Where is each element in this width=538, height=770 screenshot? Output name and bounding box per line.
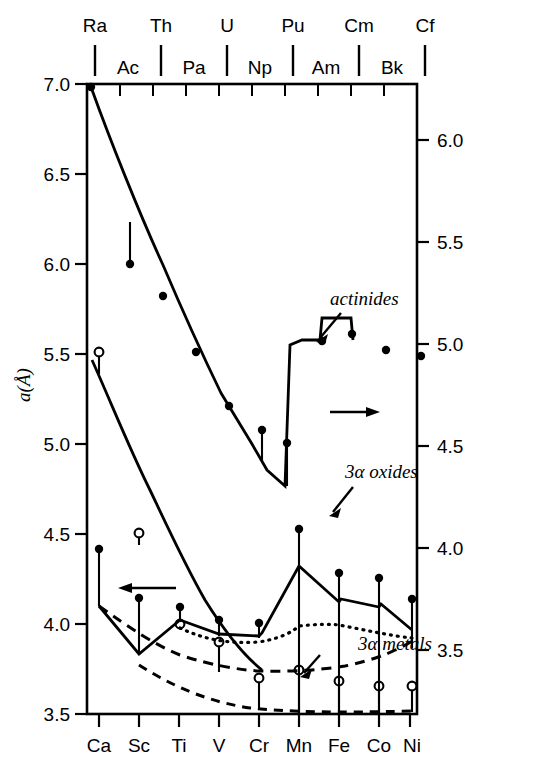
bottom-label-ti: Ti	[171, 735, 186, 756]
series-3d-oxides	[95, 525, 416, 714]
bottom-label-cr: Cr	[249, 735, 270, 756]
left-tick-6-5: 6.5	[44, 164, 70, 185]
left-descending-point-ca	[95, 348, 104, 357]
series-actinides	[87, 83, 425, 486]
bottom-label-ni: Ni	[403, 735, 421, 756]
bottom-axis-tick-labels: Ca Sc Ti V Cr Mn Fe Co Ni	[87, 735, 421, 756]
top-label-am: Am	[312, 57, 341, 78]
top-axis-major-labels: Ra Th U Pu Cm Cf	[83, 15, 435, 36]
3d-oxides-point-ca	[95, 545, 103, 553]
left-axis-ticks	[75, 84, 87, 714]
top-label-th: Th	[150, 15, 172, 36]
actinides-point-ac	[126, 260, 134, 268]
bottom-label-fe: Fe	[328, 735, 350, 756]
3d-oxides-point-ni	[408, 595, 416, 603]
actinides-line	[91, 87, 353, 486]
right-axis-tick-labels: 6.0 5.5 5.0 4.5 4.0 3.5	[437, 130, 463, 661]
annotation-actinides: actinides	[316, 288, 399, 344]
right-tick-3-5: 3.5	[437, 640, 463, 661]
actinides-point-th	[159, 292, 167, 300]
3d-oxides-point-fe	[335, 569, 343, 577]
actinides-stems	[130, 222, 287, 486]
annotation-3d-oxides: 3α oxides	[329, 461, 418, 518]
y-axis-title: a(Å)	[13, 368, 35, 402]
3d-oxides-points	[95, 525, 416, 627]
annotation-actinides-label: actinides	[330, 288, 399, 309]
3d-oxides-point-sc	[135, 594, 143, 602]
3d-oxides-point-v	[215, 616, 223, 624]
annotation-3d-metals: 3α metals	[300, 633, 432, 679]
left-descending-point-v	[215, 638, 224, 647]
left-tick-4-0: 4.0	[44, 614, 70, 635]
top-label-np: Np	[248, 57, 272, 78]
annotation-3d-metals-label: 3α metals	[357, 633, 432, 654]
left-tick-6-0: 6.0	[44, 254, 70, 275]
actinides-point-bk	[382, 346, 390, 354]
left-descending-point-sc	[135, 529, 144, 538]
actinides-point-ra	[87, 83, 95, 91]
top-label-ac: Ac	[117, 57, 139, 78]
3d-oxides-point-co	[375, 574, 383, 582]
top-label-cf: Cf	[416, 15, 436, 36]
right-axis-ticks	[417, 140, 429, 650]
3d-oxides-point-ti	[176, 603, 184, 611]
top-axis-ticks	[87, 84, 417, 96]
actinides-point-pa	[192, 348, 200, 356]
series-left-descending	[92, 348, 416, 714]
right-tick-4-0: 4.0	[437, 538, 463, 559]
left-descending-point-ni	[408, 682, 417, 691]
right-tick-6-0: 6.0	[437, 130, 463, 151]
bottom-label-mn: Mn	[286, 735, 312, 756]
left-tick-4-5: 4.5	[44, 524, 70, 545]
right-axis-direction-arrow-icon	[330, 407, 380, 417]
left-tick-7-0: 7.0	[44, 74, 70, 95]
bottom-label-co: Co	[367, 735, 391, 756]
left-tick-3-5: 3.5	[44, 704, 70, 725]
actinides-point-u	[225, 402, 233, 410]
plot-frame	[87, 84, 417, 714]
annotation-3d-oxides-arrow-icon	[329, 487, 353, 518]
top-label-cm: Cm	[344, 15, 374, 36]
bottom-label-sc: Sc	[128, 735, 150, 756]
left-tick-5-0: 5.0	[44, 434, 70, 455]
right-tick-5-0: 5.0	[437, 334, 463, 355]
left-tick-5-5: 5.5	[44, 344, 70, 365]
right-tick-5-5: 5.5	[437, 232, 463, 253]
actinides-points	[87, 83, 425, 447]
3d-oxides-point-cr	[255, 619, 263, 627]
actinides-point-cf	[417, 352, 425, 360]
right-tick-4-5: 4.5	[437, 436, 463, 457]
bottom-label-v: V	[213, 735, 226, 756]
left-axis-direction-arrow-icon	[118, 583, 176, 593]
top-label-ra: Ra	[83, 15, 108, 36]
bottom-label-ca: Ca	[87, 735, 112, 756]
bottom-axis-ticks	[99, 714, 410, 727]
actinides-point-pu	[283, 439, 291, 447]
left-axis-tick-labels: 7.0 6.5 6.0 5.5 5.0 4.5 4.0 3.5	[44, 74, 70, 725]
top-label-pu: Pu	[281, 15, 304, 36]
figure-panel: Ra Th U Pu Cm Cf Ac Pa Np Am Bk 7.0 6.5 …	[0, 0, 538, 770]
chart-svg: Ra Th U Pu Cm Cf Ac Pa Np Am Bk 7.0 6.5 …	[0, 0, 538, 770]
top-label-u: U	[220, 15, 234, 36]
actinides-point-np	[258, 426, 266, 434]
annotation-3d-oxides-label: 3α oxides	[344, 461, 418, 482]
left-descending-stems	[99, 354, 412, 714]
3d-oxides-point-mn	[295, 525, 303, 533]
actinides-point-cm	[348, 330, 356, 338]
top-label-bk: Bk	[381, 57, 404, 78]
top-label-pa: Pa	[182, 57, 206, 78]
left-descending-point-cr	[255, 674, 264, 683]
